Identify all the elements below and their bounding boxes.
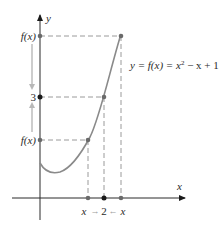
x-right-point bbox=[119, 196, 124, 201]
equation-rhs: − x + 1 bbox=[184, 59, 218, 71]
limit-3-point bbox=[38, 95, 43, 100]
x-limit-2-point bbox=[102, 196, 107, 201]
y-approach-arrows bbox=[29, 44, 35, 132]
down-arrow-icon bbox=[29, 84, 35, 90]
upper-fx-label: f(x) bbox=[21, 30, 37, 43]
x-right-arrow-label: → bbox=[91, 206, 100, 216]
equation-lhs: y = f(x) = x bbox=[129, 59, 181, 72]
limit-3-label: 3 bbox=[31, 91, 37, 103]
equation-label: y = f(x) = x2 − x + 1 bbox=[129, 59, 219, 72]
y-axis-label: y bbox=[45, 12, 51, 24]
curve-upper-point bbox=[119, 34, 124, 39]
guide-lines bbox=[40, 36, 121, 198]
lower-fx-point bbox=[38, 138, 43, 143]
x-axis-label: x bbox=[176, 180, 182, 192]
curve-limit-point bbox=[102, 95, 107, 100]
curve-lower-point bbox=[86, 138, 91, 143]
x-limit-2-label: 2 bbox=[101, 205, 107, 217]
x-right-label: x bbox=[120, 205, 126, 217]
x-left-point bbox=[86, 196, 91, 201]
x-left-label: x bbox=[81, 205, 87, 217]
lower-fx-label: f(x) bbox=[21, 134, 37, 147]
parabola-curve bbox=[40, 34, 121, 173]
x-left-arrow-label: ← bbox=[109, 206, 118, 216]
upper-fx-point bbox=[38, 34, 43, 39]
limit-diagram: y x f(x) 3 f(x) x → 2 ← x y = f(x) = x2 … bbox=[0, 0, 222, 229]
